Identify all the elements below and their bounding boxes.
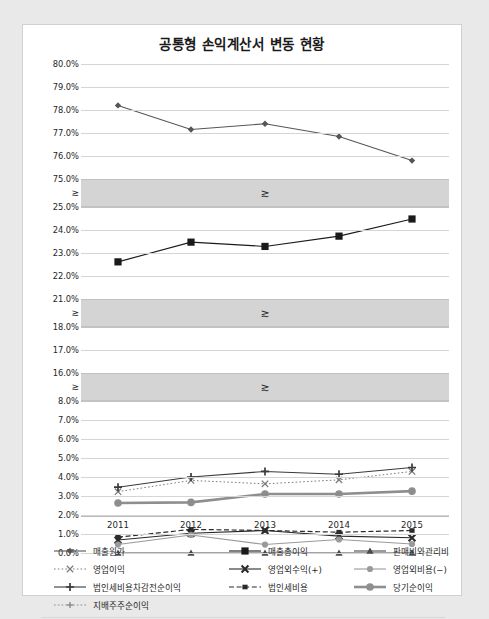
- legend-item-label: 영업이익: [93, 563, 125, 575]
- y-axis-tick-label: 22.0%: [25, 271, 79, 281]
- chart-card: 공통형 손익계산서 변동 현황 80.0%79.0%78.0%77.0%76.0…: [22, 24, 462, 596]
- gridline: [81, 207, 449, 208]
- gridline: [81, 276, 449, 277]
- legend-item-s0[interactable]: 매출원가: [53, 542, 125, 560]
- data-point-marker: [67, 602, 73, 608]
- legend-swatch-icon: [353, 545, 387, 557]
- gridline: [81, 534, 449, 535]
- data-point-marker: [187, 239, 194, 246]
- x-axis-tick-label: 2014: [328, 520, 350, 530]
- legend-item-s4[interactable]: 영업외수익(+): [228, 560, 322, 578]
- legend-swatch-icon: [228, 563, 262, 575]
- data-point-marker: [366, 583, 374, 591]
- data-point-marker: [408, 215, 415, 222]
- legend-swatch-icon: [353, 581, 387, 593]
- legend-item-s3[interactable]: 영업이익: [53, 560, 125, 578]
- y-axis-tick-label: 3.0%: [25, 491, 79, 501]
- data-point-marker: [67, 566, 73, 572]
- legend-item-label: 매출원가: [93, 545, 125, 557]
- gridline: [81, 87, 449, 88]
- y-axis-tick-label: 4.0%: [25, 472, 79, 482]
- axis-break-marker-label: ≳: [25, 308, 79, 318]
- series-1: [114, 215, 415, 265]
- legend-item-s5[interactable]: 영업외비용(−): [353, 560, 447, 578]
- x-axis-tick-label: 2012: [180, 520, 202, 530]
- legend-item-s2[interactable]: 판매비와관리비: [353, 542, 449, 560]
- legend-swatch-icon: [228, 545, 262, 557]
- gridline: [81, 458, 449, 459]
- legend-item-s8[interactable]: 당기순이익: [353, 578, 433, 596]
- gridline: [81, 439, 449, 440]
- gridline: [81, 156, 449, 157]
- series-8: [114, 487, 416, 506]
- legend-item-label: 법인세비용: [268, 581, 308, 593]
- y-axis: 80.0%79.0%78.0%77.0%76.0%75.0%25.0%24.0%…: [23, 64, 79, 516]
- data-point-marker: [262, 121, 268, 127]
- data-point-marker: [335, 233, 342, 240]
- data-point-marker: [261, 467, 269, 475]
- data-point-marker: [409, 157, 415, 163]
- axis-break-marker: ≳: [81, 187, 449, 200]
- axis-break-marker-label: ≳: [25, 382, 79, 392]
- y-axis-tick-label: 5.0%: [25, 453, 79, 463]
- legend-row: 영업이익영업외수익(+)영업외비용(−): [53, 560, 453, 578]
- legend-item-s1[interactable]: 매출총이익: [228, 542, 308, 560]
- legend-item-s9[interactable]: 지배주주순이익: [53, 596, 149, 614]
- y-axis-tick-label: 24.0%: [25, 225, 79, 235]
- y-axis-tick-label: 18.0%: [25, 322, 79, 332]
- y-axis-tick-label: 25.0%: [25, 202, 79, 212]
- data-point-marker: [242, 585, 247, 590]
- y-axis-tick-label: 78.0%: [25, 105, 79, 115]
- gridline: [81, 420, 449, 421]
- data-point-marker: [188, 126, 194, 132]
- plot-area: ≳≳≳: [81, 64, 449, 516]
- gridline: [81, 133, 449, 134]
- x-axis-tick-label: 2013: [254, 520, 276, 530]
- legend-item-label: 영업외비용(−): [393, 563, 447, 575]
- y-axis-tick-label: 80.0%: [25, 59, 79, 69]
- data-point-marker: [114, 483, 122, 491]
- gridline: [81, 401, 449, 402]
- legend-item-s6[interactable]: 법인세비용차감전순이익: [53, 578, 181, 596]
- legend-swatch-icon: [53, 581, 87, 593]
- legend-swatch-icon: [53, 599, 87, 611]
- gridline: [81, 477, 449, 478]
- chart-legend: 매출원가매출총이익판매비와관리비영업이익영업외수익(+)영업외비용(−)법인세비…: [53, 542, 453, 614]
- legend-row: 법인세비용차감전순이익법인세비용당기순이익: [53, 578, 453, 596]
- data-point-marker: [115, 535, 120, 540]
- legend-item-label: 영업외수익(+): [268, 563, 322, 575]
- data-point-marker: [66, 583, 74, 591]
- y-axis-tick-label: 6.0%: [25, 434, 79, 444]
- x-axis-tick-label: 2011: [107, 520, 129, 530]
- x-axis-line: [81, 516, 449, 517]
- gridline: [81, 253, 449, 254]
- y-axis-tick-label: 75.0%: [25, 174, 79, 184]
- data-point-marker: [408, 464, 416, 472]
- legend-item-label: 매출총이익: [268, 545, 308, 557]
- legend-item-s7[interactable]: 법인세비용: [228, 578, 308, 596]
- y-axis-tick-label: 79.0%: [25, 82, 79, 92]
- y-axis-tick-label: 8.0%: [25, 396, 79, 406]
- gridline: [81, 230, 449, 231]
- legend-item-label: 법인세비용차감전순이익: [93, 581, 181, 593]
- legend-swatch-icon: [53, 563, 87, 575]
- legend-row: 지배주주순이익: [53, 596, 453, 614]
- x-axis-tick-label: 2015: [401, 520, 423, 530]
- legend-item-label: 판매비와관리비: [393, 545, 449, 557]
- data-point-marker: [261, 243, 268, 250]
- data-point-marker: [188, 532, 194, 538]
- legend-divider: [41, 617, 445, 618]
- legend-swatch-icon: [53, 545, 87, 557]
- gridline: [81, 64, 449, 65]
- legend-item-label: 지배주주순이익: [93, 599, 149, 611]
- y-axis-tick-label: 7.0%: [25, 415, 79, 425]
- legend-swatch-icon: [353, 563, 387, 575]
- y-axis-tick-label: 1.0%: [25, 529, 79, 539]
- y-axis-tick-label: 23.0%: [25, 248, 79, 258]
- y-axis-tick-label: 17.0%: [25, 345, 79, 355]
- legend-item-label: 당기순이익: [393, 581, 433, 593]
- gridline: [81, 110, 449, 111]
- y-axis-tick-label: 77.0%: [25, 128, 79, 138]
- data-point-marker: [67, 548, 73, 554]
- data-point-marker: [367, 566, 373, 572]
